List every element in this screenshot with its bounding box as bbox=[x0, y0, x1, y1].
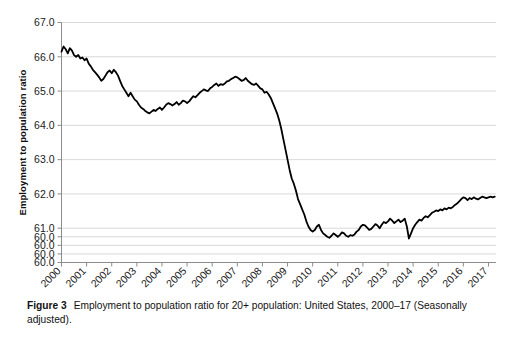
x-tick-label: 2008 bbox=[239, 264, 264, 289]
figure-caption: Figure 3Employment to population ratio f… bbox=[27, 299, 495, 327]
x-axis: 2000200120022003200420052006200720082009… bbox=[38, 263, 496, 290]
x-tick-label: 2017 bbox=[465, 264, 490, 289]
y-tick-label: 63.0 bbox=[34, 153, 55, 165]
x-tick-label: 2011 bbox=[315, 264, 340, 289]
employment-ratio-line-chart: 67.066.065.064.063.062.061.060.060.060.0… bbox=[0, 0, 520, 292]
x-tick-label: 2006 bbox=[189, 264, 214, 289]
y-tick-label: 65.0 bbox=[34, 85, 55, 97]
figure-container: 67.066.065.064.063.062.061.060.060.060.0… bbox=[0, 0, 520, 343]
y-tick-label: 66.0 bbox=[34, 51, 55, 63]
x-tick-label: 2004 bbox=[138, 264, 163, 289]
y-tick-label: 64.0 bbox=[34, 119, 55, 131]
x-tick-label: 2015 bbox=[415, 264, 440, 289]
y-axis-title: Employment to population ratio bbox=[17, 69, 28, 215]
y-tick-label: 62.0 bbox=[34, 188, 55, 200]
x-tick-label: 2001 bbox=[63, 264, 88, 289]
data-line-employment-ratio bbox=[62, 47, 495, 239]
x-tick-label: 2009 bbox=[264, 264, 289, 289]
y-tick-label: 67.0 bbox=[34, 16, 55, 28]
x-tick-label: 2002 bbox=[88, 264, 113, 289]
x-tick-label: 2014 bbox=[390, 264, 415, 289]
x-tick-label: 2013 bbox=[364, 264, 389, 289]
x-tick-label: 2007 bbox=[214, 264, 239, 289]
x-tick-label: 2003 bbox=[113, 264, 138, 289]
x-tick-label: 2005 bbox=[163, 264, 188, 289]
x-tick-label: 2012 bbox=[339, 264, 364, 289]
chart-plot-area: 67.066.065.064.063.062.061.060.060.060.0… bbox=[0, 0, 520, 292]
y-axis: 67.066.065.064.063.062.061.060.060.060.0… bbox=[34, 16, 61, 268]
figure-caption-text: Employment to population ratio for 20+ p… bbox=[27, 300, 467, 325]
x-tick-label: 2016 bbox=[440, 264, 465, 289]
data-series-group bbox=[62, 47, 495, 239]
y-axis-title-text: Employment to population ratio bbox=[17, 69, 28, 215]
gridlines-group bbox=[62, 23, 497, 263]
figure-caption-label: Figure 3 bbox=[27, 300, 67, 311]
x-tick-label: 2010 bbox=[289, 264, 314, 289]
